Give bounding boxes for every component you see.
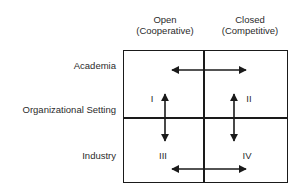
quadrant-label-i: I	[151, 93, 154, 104]
horizontal-divider	[124, 117, 287, 119]
quadrant-label-iv: IV	[243, 150, 252, 161]
quadrant-label-iii: III	[159, 150, 167, 161]
column-header-closed: Closed (Competitive)	[222, 14, 279, 36]
matrix-box	[123, 50, 288, 183]
column-header-closed-sublabel: (Competitive)	[222, 25, 279, 36]
row-header-academia: Academia	[0, 60, 116, 71]
column-header-open-sublabel: (Cooperative)	[136, 25, 194, 36]
y-axis-title: Organizational Setting	[0, 104, 116, 115]
quadrant-label-ii: II	[246, 93, 251, 104]
diagram-canvas: Open (Cooperative) Closed (Competitive) …	[0, 0, 299, 192]
column-header-closed-label: Closed	[222, 14, 279, 25]
column-header-open-label: Open	[136, 14, 194, 25]
column-header-open: Open (Cooperative)	[136, 14, 194, 36]
row-header-industry: Industry	[0, 150, 116, 161]
